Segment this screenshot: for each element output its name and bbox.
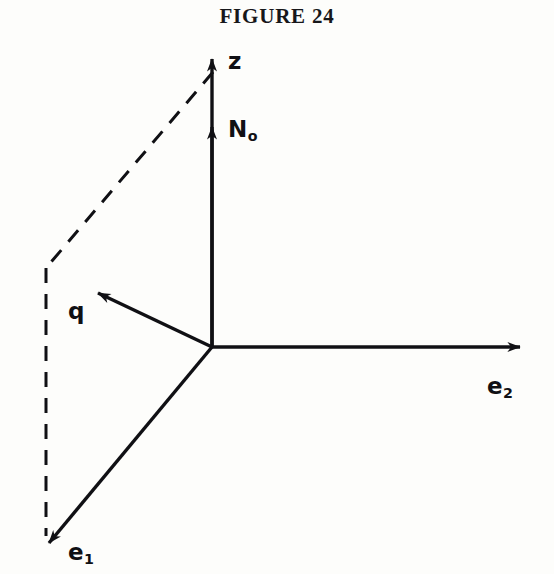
axis-e1-line [49,347,212,543]
axis-label-e1: e1 [68,541,94,564]
vector-label-q: q [68,300,84,323]
axis-label-e2: e2 [487,375,513,398]
vector-label-n0-subscript: o [247,128,257,144]
vector-q-line [98,293,212,347]
dashed-diagonal-line [46,72,213,268]
vector-diagram [0,0,554,574]
axis-label-e1-subscript: 1 [84,551,94,567]
vector-label-n0-base: N [228,116,247,142]
axis-label-e2-base: e [487,373,503,399]
axis-label-e2-subscript: 2 [503,385,513,401]
vector-label-n0: No [228,118,258,141]
axis-label-z: z [228,50,241,73]
axis-label-e1-base: e [68,539,84,565]
figure-container: FIGURE 24 z No e2 e1 q [0,0,554,574]
